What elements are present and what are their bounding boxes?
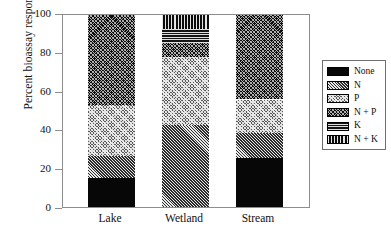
y-tick-label-0: 0	[11, 201, 51, 213]
legend-swatch-nplusk-icon	[327, 135, 349, 144]
legend-swatch-n-icon	[327, 81, 349, 90]
bar-segment-lake-n	[88, 156, 135, 178]
legend-item-none[interactable]: None	[327, 65, 382, 79]
legend-label: N	[354, 81, 361, 91]
bar-segment-lake-none	[88, 178, 135, 207]
bar-segment-stream-n	[236, 133, 283, 158]
legend-swatch-none-icon	[327, 67, 349, 76]
bar-segment-wetland-n	[162, 125, 209, 207]
y-tick-label-20: 20	[11, 162, 51, 174]
bar-segment-lake-nplusp	[88, 15, 135, 105]
legend-label: N + K	[354, 135, 378, 145]
bar-stream	[236, 15, 283, 207]
legend-item-n[interactable]: N	[327, 79, 382, 93]
legend-label: P	[354, 94, 359, 104]
y-tick-mark-80	[55, 53, 62, 54]
bar-lake	[88, 15, 135, 207]
legend-item-nplusk[interactable]: N + K	[327, 133, 382, 147]
legend-item-nplusp[interactable]: N + P	[327, 106, 382, 120]
bar-segment-stream-p	[236, 100, 283, 134]
plot-area	[62, 14, 310, 208]
bar-wetland	[162, 15, 209, 207]
y-tick-mark-0	[55, 208, 62, 209]
legend-label: N + P	[354, 108, 376, 118]
legend-label: K	[354, 121, 361, 131]
legend-item-p[interactable]: P	[327, 92, 382, 106]
bar-segment-stream-nplusp	[236, 15, 283, 99]
y-axis-title: Percent bioassay responses	[22, 0, 34, 136]
y-tick-mark-60	[55, 92, 62, 93]
y-tick-label-60: 60	[11, 85, 51, 97]
bar-segment-stream-none	[236, 158, 283, 207]
y-tick-label-100: 100	[11, 7, 51, 19]
x-tick-label-stream: Stream	[213, 212, 303, 224]
legend-swatch-p-icon	[327, 94, 349, 103]
y-tick-mark-100	[55, 14, 62, 15]
y-tick-label-40: 40	[11, 123, 51, 135]
bar-segment-wetland-k	[162, 29, 209, 42]
legend: NoneNPN + PKN + K	[322, 60, 386, 150]
legend-swatch-k-icon	[327, 122, 349, 131]
y-tick-mark-40	[55, 130, 62, 131]
legend-label: None	[354, 67, 375, 77]
bar-segment-wetland-nplusk	[162, 15, 209, 29]
legend-swatch-nplusp-icon	[327, 108, 349, 117]
y-tick-mark-20	[55, 169, 62, 170]
bar-segment-wetland-nplusp	[162, 43, 209, 57]
bioassay-stacked-bar-chart: Percent bioassay responses 0 20 40 60 80…	[0, 0, 391, 238]
bar-segment-lake-p	[88, 105, 135, 156]
bar-segment-wetland-p	[162, 57, 209, 125]
legend-item-k[interactable]: K	[327, 119, 382, 133]
y-tick-label-80: 80	[11, 46, 51, 58]
